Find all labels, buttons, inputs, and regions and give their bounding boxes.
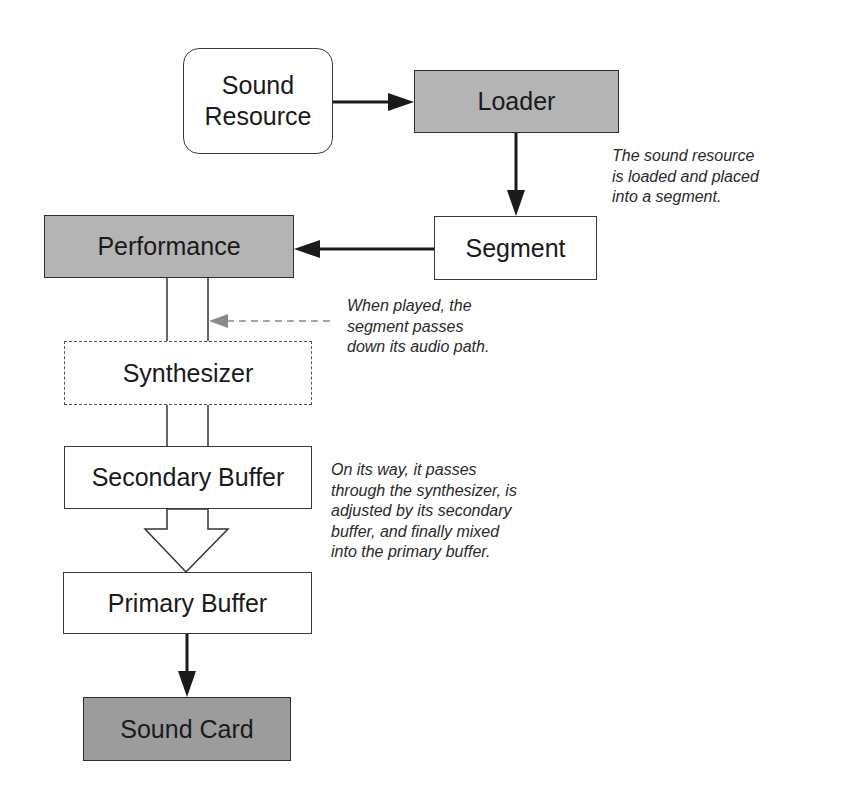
node-secondary-buffer: Secondary Buffer: [64, 446, 312, 509]
pipe-performance-to-synthesizer: [167, 278, 208, 341]
node-loader: Loader: [414, 70, 619, 133]
dashed-arrow-played-note: [209, 314, 330, 328]
arrow-loader-to-segment: [507, 133, 525, 216]
node-sound-resource: Sound Resource: [183, 48, 333, 154]
audio-path-diagram: Sound Resource Loader Segment Performanc…: [0, 0, 844, 798]
note-loaded: The sound resource is loaded and placed …: [612, 146, 759, 208]
node-sound-card: Sound Card: [83, 697, 291, 761]
pipe-synthesizer-to-secondary: [167, 405, 208, 446]
arrow-segment-to-performance: [294, 240, 434, 258]
note-on-its-way: On its way, it passes through the synthe…: [331, 460, 517, 563]
arrow-resource-to-loader: [333, 93, 414, 111]
node-synthesizer: Synthesizer: [64, 341, 312, 405]
block-arrow-secondary-to-primary: [145, 509, 228, 572]
node-segment: Segment: [434, 216, 597, 280]
node-primary-buffer: Primary Buffer: [63, 572, 312, 634]
arrow-primary-to-soundcard: [178, 634, 196, 697]
note-played: When played, the segment passes down its…: [347, 296, 489, 358]
node-performance: Performance: [44, 215, 294, 278]
